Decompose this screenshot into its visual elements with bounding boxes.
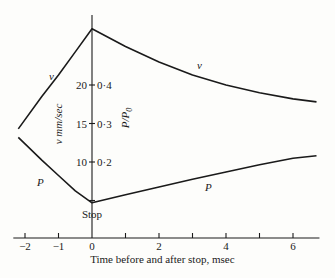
x-tick-label: 0	[89, 240, 95, 252]
x-tick-label: −2	[19, 240, 31, 252]
y-axis-title-p: P/P0	[119, 108, 134, 130]
x-tick-label: 2	[156, 240, 162, 252]
series-v-label: v	[197, 59, 202, 71]
y-tick-label-p: 0·3	[97, 118, 112, 130]
x-tick-label: 4	[223, 240, 229, 252]
y-tick-label-v: 15	[76, 118, 88, 130]
y-tick-label-p: 0·4	[97, 79, 112, 91]
y-tick-label-v: 10	[76, 156, 88, 168]
series-p-label: P	[36, 176, 44, 188]
y-tick-label-v: 20	[76, 79, 88, 91]
x-axis-title: Time before and after stop, msec	[90, 253, 235, 265]
labels: −2−10246Time before and after stop, msec…	[19, 59, 296, 265]
series-v-label: v	[49, 70, 54, 82]
stop-annotation: Stop	[82, 208, 103, 220]
chart: −2−10246Time before and after stop, msec…	[0, 0, 335, 278]
series-p-line	[18, 137, 316, 202]
x-tick-label: 6	[290, 240, 296, 252]
series-p-label: P	[204, 181, 212, 193]
x-tick-label: −1	[53, 240, 65, 252]
y-axis-title-v: v mm/sec	[52, 104, 64, 145]
y-tick-label-p: 0·2	[97, 156, 112, 168]
